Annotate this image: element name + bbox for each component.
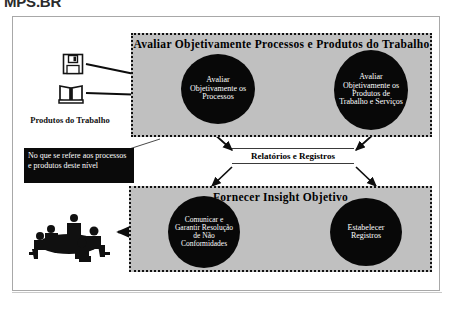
node-avaliar-objetivamente-os-produtos[interactable]: Avaliar Objetivamente os Produtos de Tra… <box>334 50 408 130</box>
node-avaliar-objetivamente-os-processos[interactable]: Avaliar Objetivamente os Processos <box>181 54 255 124</box>
meeting-table-icon <box>24 212 114 268</box>
connector-label-text: Relatórios e Registros <box>232 149 354 163</box>
node-estabelecer-registros[interactable]: Estabelecer Registros <box>330 198 402 266</box>
connector-rule-bottom <box>232 163 354 164</box>
group-title-avaliar: Avaliar Objetivamente Processos e Produt… <box>133 38 430 50</box>
figure-base-rule <box>12 292 442 293</box>
label-produtos-do-trabalho: Produtos do Trabalho <box>22 115 118 125</box>
diagram-stage: MPS.BR Avaliar Objetivamente Processos e… <box>0 0 458 310</box>
node-label-comunicar: Comunicar e Garantir Resolução de Não Co… <box>168 216 240 248</box>
document-heading: MPS.BR <box>4 0 61 10</box>
floppy-disk-icon <box>62 53 84 79</box>
node-label-produtos: Avaliar Objetivamente os Produtos de Tra… <box>334 73 408 107</box>
connector-relatorios-e-registros: Relatórios e Registros <box>232 148 354 164</box>
node-label-processos: Avaliar Objetivamente os Processos <box>181 76 255 101</box>
node-comunicar-garantir-resolucao[interactable]: Comunicar e Garantir Resolução de Não Co… <box>168 196 240 268</box>
callout-escopo-nivel: No que se refere aos processos e produto… <box>24 148 134 183</box>
open-book-icon <box>58 83 84 109</box>
group-title-insight: Fornecer Insight Objetivo <box>131 191 430 203</box>
node-label-registros: Estabelecer Registros <box>330 224 402 241</box>
